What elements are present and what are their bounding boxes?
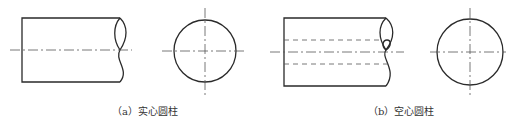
caption-hollow-cylinder: （b）空心圆柱 [368, 103, 434, 118]
hollow-cylinder-outline [284, 18, 386, 86]
drawing-canvas [0, 0, 512, 124]
caption-solid-cylinder: （a）实心圆柱 [112, 103, 178, 118]
solid-cylinder-break-lobe [115, 18, 120, 50]
